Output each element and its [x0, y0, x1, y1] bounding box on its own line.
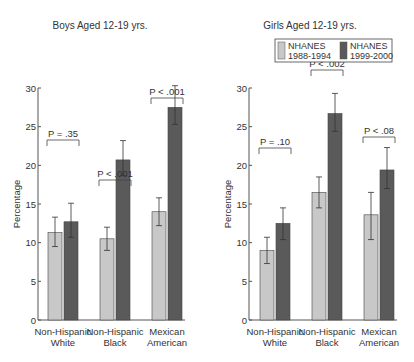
y-axis-label: Percentage [11, 180, 22, 229]
y-tick-label: 20 [236, 160, 247, 171]
y-tick-label: 0 [242, 315, 247, 326]
y-tick-label: 25 [236, 121, 247, 132]
y-tick-label: 5 [31, 276, 36, 287]
legend-label: NHANES [288, 41, 326, 51]
x-category-label: American [147, 337, 187, 348]
bar-1988-1994 [100, 239, 114, 320]
legend-label: 1988-1994 [288, 51, 331, 61]
legend-label: 1999-2000 [350, 51, 393, 61]
bar-1999-2000 [380, 170, 394, 320]
p-value-label: P < .08 [364, 125, 394, 136]
significance-bracket [363, 137, 395, 143]
girls-chart: Girls Aged 12-19 yrs.051015202530Percent… [222, 20, 399, 348]
y-tick-label: 25 [25, 121, 36, 132]
x-category-label: Mexican [149, 326, 184, 337]
x-category-label: Non-Hispanic [86, 326, 143, 337]
boys-chart: Boys Aged 12-19 yrs.051015202530Percenta… [11, 20, 187, 348]
p-value-label: P < .001 [149, 86, 184, 97]
x-category-label: Black [315, 337, 338, 348]
y-tick-label: 15 [25, 199, 36, 210]
legend-swatch-1988-1994 [278, 42, 285, 59]
significance-bracket [259, 148, 291, 154]
figure: Boys Aged 12-19 yrs.051015202530Percenta… [0, 0, 414, 362]
y-tick-label: 30 [25, 83, 36, 94]
bar-1999-2000 [328, 114, 342, 320]
x-category-label: Black [103, 337, 126, 348]
y-tick-label: 30 [236, 83, 247, 94]
x-category-label: American [359, 337, 399, 348]
x-category-label: Non-Hispanic [34, 326, 91, 337]
x-category-label: White [263, 337, 287, 348]
x-category-label: White [51, 337, 75, 348]
p-value-label: P = .10 [260, 136, 290, 147]
bar-1988-1994 [312, 192, 326, 320]
chart-title: Girls Aged 12-19 yrs. [263, 20, 356, 31]
bar-1999-2000 [168, 107, 182, 320]
y-tick-label: 0 [31, 315, 36, 326]
bar-1988-1994 [152, 212, 166, 320]
significance-bracket [151, 98, 183, 104]
p-value-label: P = .35 [48, 128, 78, 139]
significance-bracket [311, 70, 343, 76]
x-category-label: Non-Hispanic [298, 326, 355, 337]
y-tick-label: 20 [25, 160, 36, 171]
x-category-label: Mexican [361, 326, 396, 337]
legend-label: NHANES [350, 41, 388, 51]
y-tick-label: 10 [25, 237, 36, 248]
y-tick-label: 10 [236, 237, 247, 248]
significance-bracket [47, 140, 79, 146]
bar-1999-2000 [116, 160, 130, 320]
legend-swatch-1999-2000 [340, 42, 347, 59]
legend: NHANES1988-1994NHANES1999-2000 [275, 39, 393, 62]
y-axis-label: Percentage [222, 180, 233, 229]
x-category-label: Non-Hispanic [246, 326, 303, 337]
chart-title: Boys Aged 12-19 yrs. [52, 20, 147, 31]
y-tick-label: 15 [236, 199, 247, 210]
p-value-label: P < .001 [97, 168, 132, 179]
y-tick-label: 5 [242, 276, 247, 287]
